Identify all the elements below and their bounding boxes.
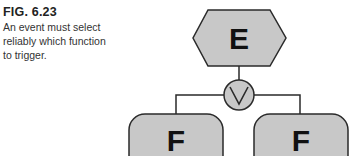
event-node: E: [193, 10, 286, 66]
xor-connector: [224, 80, 254, 110]
function-node-right: F: [254, 114, 348, 156]
function-node-left: F: [129, 114, 223, 156]
function-label-right: F: [292, 124, 310, 156]
epc-diagram: E F F: [0, 0, 350, 156]
function-label-left: F: [167, 124, 185, 156]
event-label: E: [229, 22, 249, 55]
